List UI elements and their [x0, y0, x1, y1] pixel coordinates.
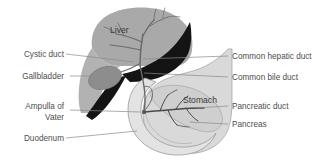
label-liver: Liver [110, 25, 129, 35]
label-pancreas: Pancreas [232, 120, 267, 129]
label-ampulla-of-vater-line1: Ampulla of [25, 102, 64, 111]
label-pancreatic-duct: Pancreatic duct [232, 102, 289, 111]
label-common-hepatic-duct: Common hepatic duct [232, 52, 312, 61]
label-stomach: Stomach [183, 95, 217, 105]
label-gallbladder: Gallbladder [22, 72, 64, 81]
label-duodenum: Duodenum [24, 134, 64, 143]
label-ampulla-of-vater-line2: Vater [45, 113, 64, 122]
anatomy-diagram: Cystic duct Gallbladder Ampulla of Vater… [0, 0, 334, 163]
label-common-bile-duct: Common bile duct [232, 73, 299, 82]
label-cystic-duct: Cystic duct [24, 50, 65, 59]
